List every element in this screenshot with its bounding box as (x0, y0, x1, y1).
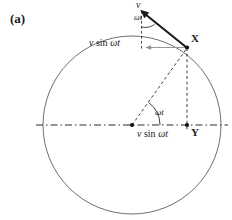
angle-label-center: ωt (155, 108, 164, 117)
velocity-label: v (136, 0, 140, 10)
center-point-marker (130, 123, 134, 127)
panel-label: (a) (10, 12, 25, 25)
displacement-component-label: v sin ωt (137, 129, 168, 139)
angle-arc-velocity (142, 24, 155, 27)
displacement-component-omega-t: ωt (158, 128, 168, 139)
velocity-component-omega-t: ωt (110, 37, 120, 48)
displacement-component-sin: sin (144, 128, 156, 139)
point-x-label: X (191, 33, 199, 44)
v-sin-component-arrowhead-icon (145, 45, 151, 49)
point-y-marker (185, 123, 189, 127)
figure-panel-a: (a) v ωt v sin ωt ωt v sin ωt X Y (0, 0, 232, 220)
angle-label-velocity: ωt (134, 14, 142, 22)
point-x-marker (185, 45, 189, 49)
point-y-label: Y (191, 127, 199, 138)
velocity-component-sin: sin (96, 37, 108, 48)
velocity-component-label: v sin ωt (89, 38, 120, 48)
